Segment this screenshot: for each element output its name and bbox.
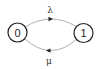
state-label-1: 1 bbox=[80, 27, 86, 39]
transition-arc-bottom bbox=[25, 39, 77, 51]
state-node-1: 1 bbox=[74, 24, 93, 43]
transition-0-to-1: λ bbox=[25, 5, 77, 27]
transition-label-lambda: λ bbox=[47, 5, 53, 15]
arrowhead-right-icon bbox=[49, 17, 54, 21]
transition-label-mu: μ bbox=[46, 56, 52, 66]
state-diagram: λ μ 0 1 bbox=[0, 0, 100, 69]
arrowhead-left-icon bbox=[46, 48, 51, 52]
transition-arc-top bbox=[25, 19, 77, 27]
state-node-0: 0 bbox=[8, 23, 27, 42]
state-label-0: 0 bbox=[14, 27, 20, 39]
transition-1-to-0: μ bbox=[25, 39, 77, 66]
